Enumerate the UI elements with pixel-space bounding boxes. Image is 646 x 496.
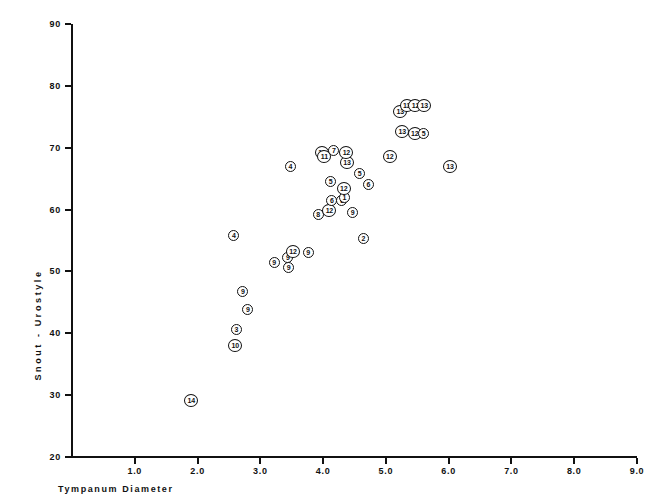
data-point: 12 bbox=[286, 245, 300, 258]
data-point: 13 bbox=[417, 99, 431, 112]
data-point: 12 bbox=[383, 150, 397, 163]
data-point: 9 bbox=[283, 262, 294, 273]
data-points-layer: 1410399499912948129661125651312711111213… bbox=[0, 0, 646, 496]
data-point: 9 bbox=[237, 286, 248, 297]
data-point: 9 bbox=[303, 247, 314, 258]
scatter-plot: 2030405060708090 1.02.03.04.05.06.07.08.… bbox=[0, 0, 646, 496]
data-point: 9 bbox=[242, 304, 253, 315]
data-point: 13 bbox=[443, 160, 457, 173]
data-point: 10 bbox=[228, 339, 242, 352]
data-point: 4 bbox=[228, 230, 239, 241]
data-point: 5 bbox=[325, 176, 336, 187]
data-point: 12 bbox=[339, 146, 353, 159]
data-point: 5 bbox=[418, 128, 429, 139]
data-point: 3 bbox=[231, 324, 242, 335]
data-point: 11 bbox=[317, 150, 331, 163]
data-point: 5 bbox=[354, 168, 365, 179]
data-point: 4 bbox=[285, 161, 296, 172]
data-point: 12 bbox=[322, 204, 336, 217]
data-point: 12 bbox=[337, 182, 351, 195]
data-point: 9 bbox=[347, 207, 358, 218]
data-point: 14 bbox=[184, 394, 198, 407]
data-point: 9 bbox=[269, 257, 280, 268]
data-point: 6 bbox=[363, 179, 374, 190]
data-point: 2 bbox=[358, 233, 369, 244]
